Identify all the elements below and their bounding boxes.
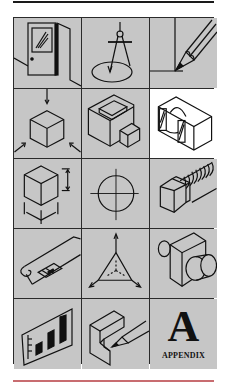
axes-triangle-icon	[82, 229, 149, 298]
cell-hollow-block[interactable]	[82, 89, 149, 158]
cell-cylinder-block[interactable]	[150, 229, 217, 298]
cell-cube-projection[interactable]	[14, 89, 81, 158]
cell-section-view[interactable]	[150, 89, 217, 158]
cube-projection-icon	[14, 89, 81, 158]
pencil-corner-icon	[150, 18, 217, 88]
dimensioned-cube-icon	[14, 159, 81, 228]
cell-centerline-circle[interactable]	[82, 159, 149, 228]
cell-dimensioned-cube[interactable]	[14, 159, 81, 228]
cylinder-block-icon	[150, 229, 217, 298]
hex-bolt-icon	[150, 159, 217, 228]
door-sketch-icon	[14, 18, 81, 88]
cell-hex-bolt[interactable]	[150, 159, 217, 228]
cell-door-sketch[interactable]	[14, 18, 81, 88]
top-rule	[13, 1, 214, 3]
cell-pencil-corner[interactable]	[150, 18, 217, 88]
compass-icon	[82, 18, 149, 88]
cell-pencil-block[interactable]	[82, 299, 149, 369]
blueprint-scroll-icon	[14, 229, 81, 298]
pencil-block-icon	[82, 299, 149, 369]
cell-bar-chart[interactable]	[14, 299, 81, 369]
cell-appendix[interactable]: A APPENDIX	[150, 299, 217, 369]
section-view-icon	[150, 89, 217, 158]
hollow-block-icon	[82, 89, 149, 158]
appendix-letter: A	[150, 305, 217, 349]
cell-axes-triangle[interactable]	[82, 229, 149, 298]
centerline-circle-icon	[82, 159, 149, 228]
cell-compass[interactable]	[82, 18, 149, 88]
bar-chart-icon	[14, 299, 81, 369]
appendix-label: APPENDIX	[150, 351, 217, 360]
bottom-rule	[13, 380, 214, 382]
chapter-icon-grid: A APPENDIX	[13, 17, 214, 364]
cell-blueprint-scroll[interactable]	[14, 229, 81, 298]
